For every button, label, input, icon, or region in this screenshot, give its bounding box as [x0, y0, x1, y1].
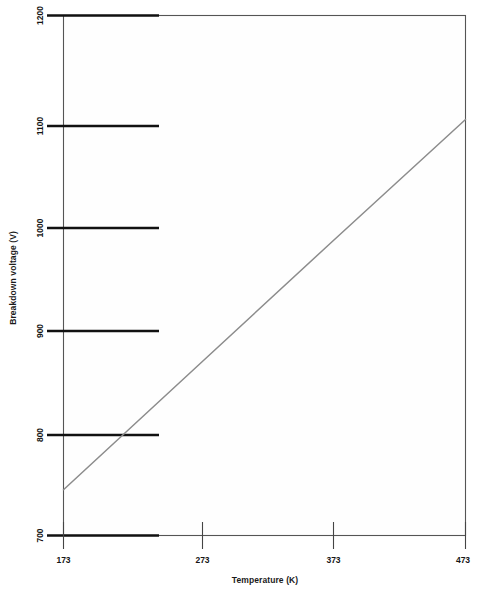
x-tick-label-373: 373: [326, 555, 340, 565]
chart-figure: 1200 1100 1000 900 800 700 Breakdown vol…: [0, 0, 477, 596]
y-tick-label-1000: 1000: [35, 218, 45, 237]
line-chart: 1200 1100 1000 900 800 700 Breakdown vol…: [0, 0, 477, 596]
y-tick-label-800: 800: [35, 428, 45, 442]
x-tick-label-273: 273: [195, 555, 209, 565]
y-tick-label-1100: 1100: [35, 117, 45, 136]
x-axis-title: Temperature (K): [232, 575, 299, 585]
plot-area-background: [64, 16, 466, 536]
x-tick-label-173: 173: [56, 555, 70, 565]
y-tick-label-700: 700: [35, 528, 45, 542]
y-tick-label-900: 900: [35, 324, 45, 338]
x-tick-label-473: 473: [456, 555, 470, 565]
y-axis-tick-labels: 1200 1100 1000 900 800 700: [35, 6, 45, 543]
y-axis-title: Breakdown voltage (V): [8, 231, 18, 325]
y-tick-label-1200: 1200: [35, 6, 45, 25]
x-axis-tick-labels: 173 273 373 473: [56, 555, 470, 565]
